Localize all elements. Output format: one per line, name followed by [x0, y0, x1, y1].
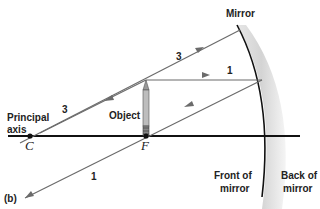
- ray-3-lower: [40, 80, 146, 133]
- mirror-label: Mirror: [226, 8, 255, 19]
- panel-label: (b): [4, 193, 17, 204]
- front-of-mirror-label-2: mirror: [220, 183, 249, 194]
- principal-axis-label-1: Principal: [7, 112, 49, 123]
- front-of-mirror-label-1: Front of: [214, 170, 252, 181]
- principal-axis-label-2: axis: [7, 124, 26, 135]
- object-pencil: [143, 80, 149, 136]
- c-label: C: [25, 138, 34, 154]
- arrow-icon: [202, 72, 210, 78]
- ray-3-lower-label: 3: [62, 104, 68, 115]
- mirror-back: [237, 25, 286, 209]
- back-of-mirror-label-2: mirror: [283, 183, 312, 194]
- arrow-icon: [184, 101, 194, 107]
- arrow-icon: [25, 191, 34, 198]
- back-of-mirror-label-1: Back of: [281, 170, 317, 181]
- ray-1-lower-label: 1: [91, 171, 97, 182]
- concave-mirror-diagram: [0, 0, 320, 209]
- ray-1-upper-label: 1: [227, 65, 233, 76]
- ray-3-upper-label: 3: [176, 51, 182, 62]
- f-label: F: [141, 138, 149, 154]
- object-label: Object: [109, 110, 140, 121]
